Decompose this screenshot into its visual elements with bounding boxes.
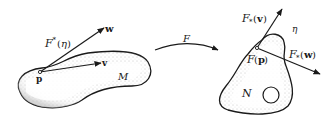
label-w: w — [104, 23, 114, 34]
svg-text:): ) — [263, 13, 267, 24]
label-eta: η — [292, 24, 298, 34]
label-p: p — [36, 74, 42, 84]
svg-text:*: * — [53, 36, 57, 44]
svg-text:): ) — [264, 54, 268, 65]
label-map-f: F — [182, 33, 191, 44]
label-n: N — [241, 87, 252, 100]
label-m: M — [117, 71, 129, 82]
svg-text:): ) — [67, 38, 71, 49]
manifold-n: F * ( v ) F * ( w ) η F ( p ) N — [220, 9, 321, 114]
label-fp: F ( p ) — [246, 53, 268, 66]
label-pullback-eta: F * ( η ) — [44, 36, 71, 50]
map-f-arrow — [155, 44, 218, 50]
manifold-map-diagram: w v p M F * ( η ) F F * ( v ) — [0, 0, 334, 126]
label-pushforward-v: F * ( v ) — [241, 12, 267, 26]
manifold-n-hole — [263, 87, 279, 103]
label-v: v — [101, 58, 108, 68]
map-f: F — [155, 33, 218, 50]
manifold-m: w v p M F * ( η ) — [18, 23, 150, 108]
point-fp — [255, 46, 258, 49]
svg-text:): ) — [312, 49, 316, 60]
label-pushforward-w: F * ( w ) — [288, 48, 316, 62]
